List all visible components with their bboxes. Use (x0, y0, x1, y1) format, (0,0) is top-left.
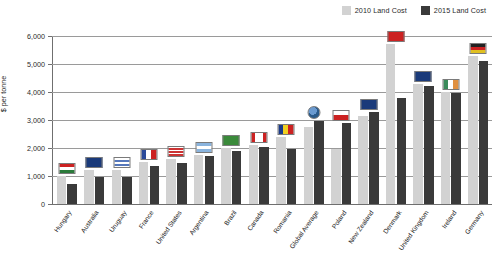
bar-2015[interactable] (259, 147, 269, 204)
x-axis-category: United Kingdom (411, 207, 439, 265)
bar-group[interactable] (273, 36, 300, 204)
bar-2015[interactable] (369, 112, 379, 204)
flag-argentina (195, 142, 212, 153)
bar-2015[interactable] (177, 163, 187, 204)
bar-2015[interactable] (397, 98, 407, 204)
y-axis-title-text: $ per tonne (0, 76, 8, 112)
x-axis-category: Global Average (301, 207, 329, 265)
bar-2015[interactable] (287, 149, 297, 204)
bar-2010[interactable] (304, 127, 314, 204)
bar-2010[interactable] (84, 170, 94, 204)
bar-2010[interactable] (194, 155, 204, 204)
flag-denmark (387, 31, 404, 42)
x-axis-category: Argentina (191, 207, 219, 265)
legend-label-2015: 2015 Land Cost (434, 6, 486, 15)
y-axis-title: $ per tonne (0, 58, 8, 94)
bar-2010[interactable] (331, 149, 341, 204)
bar-2010[interactable] (139, 162, 149, 204)
flag-australia (86, 157, 103, 168)
x-axis-line (52, 204, 492, 205)
flag-germany (470, 43, 487, 54)
bar-group[interactable] (108, 36, 135, 204)
flag-poland (333, 110, 350, 121)
y-tick-label-0: 0 (41, 200, 45, 209)
y-tick-label-6000: 6,000 (27, 32, 45, 41)
bar-2010[interactable] (413, 84, 423, 204)
bar-group[interactable] (465, 36, 492, 204)
bar-group[interactable] (327, 36, 354, 204)
globe-icon (307, 106, 320, 119)
bar-2015[interactable] (479, 61, 489, 204)
bar-2015[interactable] (451, 93, 461, 204)
flag-hungary (58, 163, 75, 174)
flag-france (141, 149, 158, 160)
bar-2010[interactable] (221, 148, 231, 204)
bar-2015[interactable] (205, 156, 215, 204)
bar-2015[interactable] (95, 177, 105, 204)
bar-group[interactable] (410, 36, 437, 204)
bar-2015[interactable] (232, 151, 242, 204)
bar-group[interactable] (53, 36, 80, 204)
x-axis-category-label: Brazil (222, 209, 237, 227)
bar-2015[interactable] (342, 123, 352, 204)
chart-legend: 2010 Land Cost 2015 Land Cost (0, 6, 498, 15)
bar-2010[interactable] (468, 56, 478, 204)
bar-group[interactable] (245, 36, 272, 204)
legend-swatch-2010 (342, 6, 351, 15)
flag-united-states (168, 146, 185, 157)
bar-groups (53, 36, 492, 204)
y-tick-mark-2000 (48, 148, 52, 149)
x-axis-category: Australia (81, 207, 109, 265)
x-axis-category-label: France (137, 209, 155, 230)
y-tick-mark-5000 (48, 64, 52, 65)
bar-2015[interactable] (150, 166, 160, 204)
bar-2010[interactable] (112, 170, 122, 204)
bar-2010[interactable] (166, 159, 176, 204)
x-axis-category: Hungary (53, 207, 81, 265)
bar-2010[interactable] (249, 145, 259, 204)
bar-2010[interactable] (441, 92, 451, 204)
bar-2015[interactable] (424, 86, 434, 204)
x-axis-category-label: Romania (272, 209, 293, 235)
flag-romania (278, 124, 295, 135)
x-axis-category: Ireland (438, 207, 466, 265)
bar-group[interactable] (382, 36, 409, 204)
bar-group[interactable] (355, 36, 382, 204)
x-axis-category-label: Denmark (381, 209, 402, 235)
x-axis-category-label: Canada (246, 209, 265, 232)
bar-2010[interactable] (386, 44, 396, 204)
legend-item-2010: 2010 Land Cost (342, 6, 407, 15)
flag-united-kingdom (415, 71, 432, 82)
flag-canada (250, 132, 267, 143)
bar-2015[interactable] (314, 121, 324, 204)
legend-label-2010: 2010 Land Cost (355, 6, 407, 15)
y-tick-mark-1000 (48, 176, 52, 177)
bar-group[interactable] (437, 36, 464, 204)
bar-group[interactable] (190, 36, 217, 204)
bar-group[interactable] (80, 36, 107, 204)
bar-2010[interactable] (57, 176, 67, 204)
y-tick-mark-0 (48, 204, 52, 205)
x-axis-category-label: Argentina (188, 209, 210, 236)
y-tick-mark-3000 (48, 120, 52, 121)
bar-2015[interactable] (67, 184, 77, 204)
x-axis-categories: HungaryAustraliaUruguayFranceUnited Stat… (53, 207, 493, 265)
bar-group[interactable] (300, 36, 327, 204)
x-axis-category-label: Ireland (440, 209, 457, 230)
y-tick-mark-6000 (48, 36, 52, 37)
bar-group[interactable] (218, 36, 245, 204)
y-tick-label-5000: 5,000 (27, 60, 45, 69)
bar-group[interactable] (135, 36, 162, 204)
flag-uruguay (113, 157, 130, 168)
land-cost-bar-chart: 2010 Land Cost 2015 Land Cost $ per tonn… (0, 0, 498, 267)
flag-ireland (442, 79, 459, 90)
x-axis-category: United States (163, 207, 191, 265)
y-tick-label-3000: 3,000 (27, 116, 45, 125)
x-axis-category-label: Poland (330, 209, 348, 230)
bar-2010[interactable] (276, 137, 286, 204)
bar-2010[interactable] (358, 116, 368, 204)
bar-2015[interactable] (122, 177, 132, 204)
x-axis-category-label: Uruguay (107, 209, 127, 233)
x-axis-category-label: Hungary (52, 209, 72, 233)
bar-group[interactable] (163, 36, 190, 204)
